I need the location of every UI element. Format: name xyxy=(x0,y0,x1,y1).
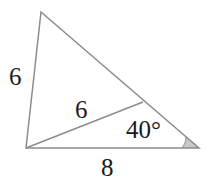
triangle-outline xyxy=(26,12,199,148)
geometry-figure: 6 6 8 40° xyxy=(0,0,215,188)
label-angle-measure: 40° xyxy=(126,117,161,142)
label-base-length: 8 xyxy=(101,155,114,180)
label-left-side-length: 6 xyxy=(9,64,22,89)
label-cevian-length: 6 xyxy=(75,97,88,122)
